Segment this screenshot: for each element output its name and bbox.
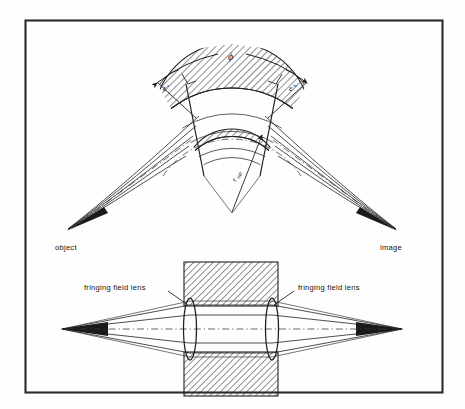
figure-canvas: ϕ ε' ε" r mo object image	[0, 0, 465, 409]
sector-angle-label: ϕ	[228, 51, 234, 62]
object-ray-bundle	[66, 116, 199, 231]
entrance-field-boundary	[186, 84, 204, 176]
mean-radius-label-group: r mo	[230, 169, 244, 183]
sector-gap-rays	[150, 114, 314, 196]
image-ray-bundle	[265, 116, 398, 231]
figure-root: ϕ ε' ε" r mo object image	[0, 0, 465, 409]
right-lens-label: fringing field lens	[298, 283, 360, 292]
gap-arc-inner	[177, 137, 288, 192]
exit-angle-label: ε"	[289, 83, 297, 93]
inner-pole-band	[177, 129, 288, 192]
upper-sector-diagram: ϕ ε' ε" r mo object image	[55, 43, 402, 253]
upper-pole-block	[184, 262, 278, 306]
lower-pole-block	[184, 352, 278, 396]
lower-lens-diagram: fringing field lens fringing field lens	[60, 262, 404, 396]
left-lens-label: fringing field lens	[84, 283, 146, 292]
sector-pole-bands	[142, 43, 323, 193]
mean-radius-subscript: mo	[235, 170, 243, 179]
apex-radial-left	[204, 176, 232, 213]
exit-field-boundary	[260, 84, 278, 176]
image-label: image	[380, 243, 402, 252]
object-label: object	[55, 243, 77, 252]
